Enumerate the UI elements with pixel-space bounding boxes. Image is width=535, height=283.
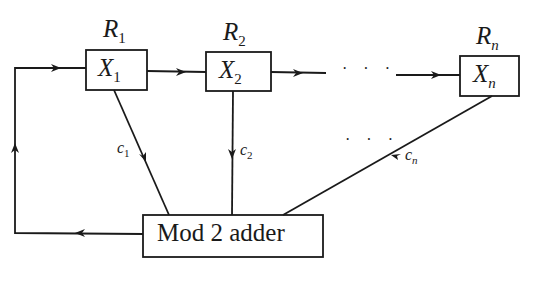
- coefficient-1: c1: [117, 139, 130, 157]
- ellipsis-middle: · · ·: [345, 131, 399, 149]
- cell-value-n: Xn: [473, 60, 496, 88]
- arrow-icon: [391, 154, 401, 160]
- register-name-n: Rn: [476, 22, 499, 50]
- register-name-1: R1: [103, 15, 126, 43]
- cell-value-1: X1: [98, 54, 121, 82]
- coefficient-2: c2: [240, 141, 253, 159]
- tap-line-n: [283, 96, 492, 215]
- cell-value-2: X2: [219, 56, 242, 84]
- coefficient-n: cn: [405, 146, 418, 164]
- adder-label: Mod 2 adder: [157, 219, 285, 247]
- ellipsis-top: · · ·: [342, 60, 396, 78]
- register-name-2: R2: [223, 18, 246, 46]
